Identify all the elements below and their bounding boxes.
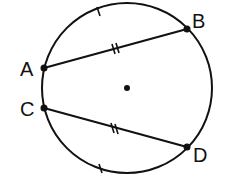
- chord-ab: [44, 29, 187, 68]
- label-a: A: [20, 58, 34, 80]
- point-d: [184, 144, 191, 151]
- point-b: [184, 26, 191, 33]
- label-d: D: [193, 144, 207, 166]
- point-a: [41, 65, 48, 72]
- chord-cd-tick-marks: [111, 123, 118, 134]
- circle-diagram: A B C D: [0, 0, 227, 179]
- center-point: [124, 85, 130, 91]
- label-c: C: [20, 98, 34, 120]
- label-b: B: [192, 10, 205, 32]
- point-c: [41, 105, 48, 112]
